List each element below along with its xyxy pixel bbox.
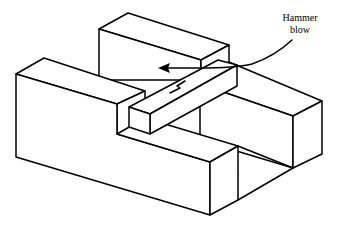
hammer-blow-label: Hammer blow <box>272 12 328 36</box>
label-line-2: blow <box>272 24 328 36</box>
diagram-canvas: Hammer blow <box>0 0 350 229</box>
label-line-1: Hammer <box>272 12 328 24</box>
